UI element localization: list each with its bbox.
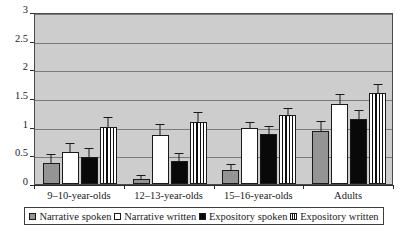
error-bar-cap (175, 153, 184, 154)
legend-swatch-icon (199, 213, 206, 220)
bar-slot (279, 14, 296, 184)
bar-group (35, 14, 125, 184)
error-bar-cap (283, 108, 292, 109)
error-bar-cap (66, 143, 75, 144)
error-bar (339, 95, 340, 104)
y-tick-mark (30, 99, 34, 100)
error-bar (179, 154, 180, 161)
bar[interactable] (190, 122, 207, 184)
error-bar-cap (226, 164, 235, 165)
error-bar (249, 123, 250, 128)
error-bar-cap (335, 94, 344, 95)
y-tick-mark (30, 42, 34, 43)
error-bar (141, 176, 142, 179)
bar-chart-figure: 00.511.522.53 9–10-year-olds12–13-year-o… (0, 0, 408, 239)
legend-item[interactable]: Expository written (290, 211, 378, 222)
error-bar (377, 85, 378, 93)
bar-slot (133, 14, 150, 184)
x-axis-tick-label: 15–16-year-olds (214, 189, 304, 203)
error-bar-cap (47, 154, 56, 155)
bar[interactable] (222, 170, 239, 184)
error-bar-cap (156, 124, 165, 125)
bar[interactable] (241, 128, 258, 184)
error-bar-cap (264, 126, 273, 127)
y-tick-mark (30, 13, 34, 14)
bar[interactable] (312, 131, 329, 184)
bar[interactable] (152, 135, 169, 184)
x-axis-labels: 9–10-year-olds12–13-year-olds15–16-year-… (34, 189, 393, 204)
bar-group (215, 14, 305, 184)
error-bar-cap (373, 84, 382, 85)
bar[interactable] (133, 179, 150, 184)
legend-label: Narrative written (124, 211, 196, 222)
bar-slot (222, 14, 239, 184)
bar-group (304, 14, 394, 184)
legend-swatch-icon (29, 213, 36, 220)
error-bar-cap (194, 112, 203, 113)
bar[interactable] (279, 115, 296, 184)
error-bar-cap (104, 117, 113, 118)
error-bar (320, 122, 321, 131)
y-tick-label: 1.5 (15, 91, 28, 102)
error-bar-cap (354, 110, 363, 111)
bar[interactable] (331, 104, 348, 184)
error-bar-cap (245, 122, 254, 123)
error-bar (198, 113, 199, 122)
y-axis: 00.511.522.53 (0, 13, 34, 186)
bar[interactable] (100, 127, 117, 184)
x-axis-tick-label: 12–13-year-olds (124, 189, 214, 203)
legend-swatch-icon (290, 213, 297, 220)
legend-label: Narrative spoken (39, 211, 111, 222)
error-bar (230, 165, 231, 170)
bar-group-container (35, 14, 392, 184)
bar[interactable] (369, 93, 386, 184)
error-bar-cap (137, 175, 146, 176)
bar-slot (43, 14, 60, 184)
x-axis-tick-label: Adults (303, 189, 393, 203)
bar-slot (171, 14, 188, 184)
x-axis-tick-mark (393, 185, 394, 189)
error-bar (160, 125, 161, 135)
bar-slot (369, 14, 386, 184)
bar-slot (241, 14, 258, 184)
bar-slot (62, 14, 79, 184)
error-bar (108, 118, 109, 127)
bar-group (125, 14, 215, 184)
error-bar (287, 109, 288, 115)
bar[interactable] (260, 134, 277, 184)
bar-slot (190, 14, 207, 184)
y-tick-mark (30, 70, 34, 71)
y-tick-label: 2 (23, 62, 28, 73)
legend-item[interactable]: Narrative spoken (29, 211, 111, 222)
bar-slot (81, 14, 98, 184)
y-tick-label: 0.5 (15, 148, 28, 159)
bar[interactable] (350, 119, 367, 184)
x-axis-tick-label: 9–10-year-olds (34, 189, 124, 203)
y-tick-label: 3 (23, 5, 28, 16)
bar-slot (152, 14, 169, 184)
y-tick-mark (30, 156, 34, 157)
bar[interactable] (171, 161, 188, 185)
error-bar (70, 144, 71, 152)
legend-label: Expository spoken (209, 211, 287, 222)
y-tick-label: 0 (23, 177, 28, 188)
legend-label: Expository written (300, 211, 378, 222)
error-bar (268, 127, 269, 133)
bar-slot (260, 14, 277, 184)
legend-item[interactable]: Narrative written (114, 211, 196, 222)
plot-area (34, 13, 393, 185)
legend-swatch-icon (114, 213, 121, 220)
y-tick-label: 1 (23, 120, 28, 131)
error-bar-cap (316, 121, 325, 122)
bar-slot (312, 14, 329, 184)
bar[interactable] (81, 157, 98, 184)
bar[interactable] (43, 163, 60, 184)
y-tick-mark (30, 128, 34, 129)
error-bar (358, 111, 359, 120)
legend-item[interactable]: Expository spoken (199, 211, 287, 222)
error-bar (51, 155, 52, 164)
error-bar (89, 149, 90, 157)
bar-slot (100, 14, 117, 184)
bar-slot (350, 14, 367, 184)
bar[interactable] (62, 152, 79, 184)
